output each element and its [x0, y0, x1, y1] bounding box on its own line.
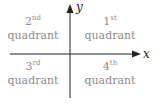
ordinal-suffix: st: [110, 14, 116, 22]
ordinal-suffix: nd: [32, 14, 41, 22]
y-axis-arrow-icon: [67, 4, 74, 13]
x-axis-arrow-icon: [132, 51, 141, 58]
quadrant-word: quadrant: [3, 74, 63, 88]
x-axis-label: x: [143, 47, 150, 61]
quadrant-word: quadrant: [3, 29, 63, 43]
quadrant-3-label: 3rd quadrant: [3, 60, 63, 88]
quadrant-4-label: 4th quadrant: [80, 60, 140, 88]
quadrant-number: 4: [103, 60, 110, 73]
quadrant-word: quadrant: [80, 74, 140, 88]
ordinal-suffix: rd: [33, 59, 41, 67]
y-axis-label: y: [76, 0, 83, 14]
quadrant-number: 3: [26, 60, 33, 73]
quadrant-number: 2: [25, 15, 32, 28]
ordinal-suffix: th: [110, 59, 117, 67]
quadrant-word: quadrant: [80, 29, 140, 43]
quadrant-1-label: 1st quadrant: [80, 15, 140, 43]
quadrant-2-label: 2nd quadrant: [3, 15, 63, 43]
